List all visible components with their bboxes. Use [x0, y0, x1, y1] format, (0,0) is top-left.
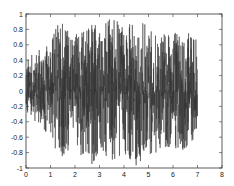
y-tick-label: -1	[17, 165, 23, 172]
y-tick-label: 0.6	[13, 41, 23, 48]
y-tick-label: -0.2	[11, 103, 23, 110]
x-tick-label: 8	[220, 171, 224, 178]
y-tick-label: 0.4	[13, 57, 23, 64]
y-tick-label: 0.2	[13, 72, 23, 79]
x-tick-label: 0	[24, 171, 28, 178]
waveform-chart: 012345678 10.80.60.40.20-0.2-0.4-0.6-0.8…	[0, 0, 234, 186]
x-tick-label: 2	[73, 171, 77, 178]
y-tick-label: -0.6	[11, 134, 23, 141]
y-tick-label: 0	[19, 88, 23, 95]
x-tick-label: 1	[49, 171, 53, 178]
y-tick-label: 0.8	[13, 26, 23, 33]
x-tick-label: 3	[98, 171, 102, 178]
x-tick-label: 6	[171, 171, 175, 178]
y-tick-label: -0.8	[11, 149, 23, 156]
y-tick-label: 1	[19, 11, 23, 18]
x-tick-label: 5	[147, 171, 151, 178]
x-tick-label: 7	[196, 171, 200, 178]
x-tick-label: 4	[122, 171, 126, 178]
y-tick-label: -0.4	[11, 118, 23, 125]
